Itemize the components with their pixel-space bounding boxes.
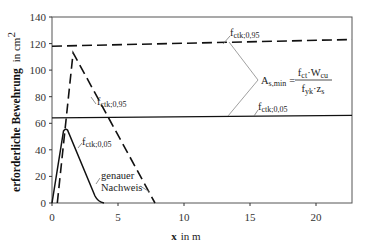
annotation-fctk005-triangle: fctk;0,05 — [82, 136, 112, 149]
annotation-fctk095-top: fctk;0,95 — [230, 27, 260, 40]
y-tick-label: 100 — [30, 64, 47, 76]
annotation-fctk095-triangle: fctk;0,95 — [97, 96, 127, 109]
annotation-genauer-nachweis-2: Nachweis — [101, 182, 142, 193]
svg-text:fct·Wcu: fct·Wcu — [298, 67, 328, 80]
y-tick-label: 80 — [35, 91, 47, 103]
y-tick-label: 40 — [35, 144, 47, 156]
annotation-fctk005-line: fctk;0,05 — [258, 101, 288, 114]
y-tick-label: 140 — [30, 11, 47, 23]
x-tick-label: 0 — [49, 211, 55, 223]
x-tick-label: 20 — [311, 211, 323, 223]
chart: 0 20 40 60 80 100 120 140 0 5 10 15 20 x… — [0, 0, 367, 251]
series-asmin-fctk005 — [52, 115, 352, 118]
y-tick-label: 20 — [35, 170, 47, 182]
leader-line — [96, 178, 100, 184]
x-axis-label: xin m — [171, 230, 201, 242]
formula-asmin: As,min= fct·Wcu fyk·zs — [261, 67, 332, 96]
series-asmin-fctk095 — [52, 40, 352, 47]
annotation-genauer-nachweis-1: genauer — [101, 170, 135, 181]
formula-bracket — [228, 42, 258, 116]
x-tick-label: 15 — [245, 211, 257, 223]
y-tick-label: 60 — [35, 117, 47, 129]
x-tick-labels: 0 5 10 15 20 — [49, 211, 322, 223]
y-axis-label: erforderliche Bewehrungin cm2 — [5, 32, 23, 192]
svg-text:fyk·zs: fyk·zs — [302, 83, 325, 96]
x-tick-label: 5 — [115, 211, 121, 223]
y-tick-labels: 0 20 40 60 80 100 120 140 — [30, 11, 47, 209]
svg-text:As,min=: As,min= — [261, 75, 295, 88]
y-tick-label: 120 — [30, 38, 47, 50]
x-tick-label: 10 — [179, 211, 191, 223]
leader-line — [91, 97, 96, 104]
y-tick-label: 0 — [41, 197, 47, 209]
